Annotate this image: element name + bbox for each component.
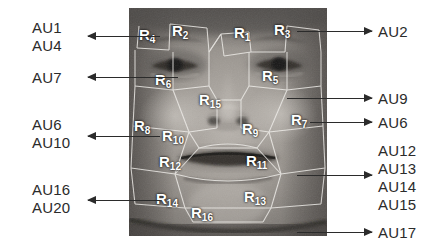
arrow-au6r	[310, 118, 372, 127]
au-label-left-au16: AU16	[32, 182, 70, 197]
arrow-au13	[297, 171, 372, 180]
arrow-au17	[297, 228, 372, 237]
au-label-right-au2: AU2	[378, 24, 408, 39]
arrow-head-icon	[364, 171, 373, 179]
arrow-head-icon	[87, 132, 96, 140]
arrow-shaft	[297, 232, 372, 233]
au-label-right-au12: AU12	[378, 143, 416, 158]
arrow-head-icon	[364, 94, 373, 102]
arrow-head-icon	[364, 27, 373, 35]
arrow-au7	[88, 73, 178, 82]
au-label-left-au6: AU6	[32, 117, 62, 132]
arrow-shaft	[297, 31, 372, 32]
arrow-head-icon	[87, 73, 96, 81]
au-label-left-au1: AU1	[32, 20, 62, 35]
au-label-right-au9: AU9	[378, 91, 408, 106]
au-label-right-au15: AU15	[378, 197, 416, 212]
arrow-shaft	[297, 175, 372, 176]
au-label-left-au7: AU7	[32, 70, 62, 85]
arrow-head-icon	[87, 196, 96, 204]
au-label-left-au20: AU20	[32, 200, 70, 215]
au-label-right-au14: AU14	[378, 179, 416, 194]
arrow-head-icon	[364, 228, 373, 236]
arrow-au6-au10	[88, 132, 160, 141]
arrow-shaft	[88, 77, 178, 78]
arrow-shaft	[88, 136, 160, 137]
arrow-head-icon	[87, 32, 96, 40]
au-label-right-au17: AU17	[378, 225, 416, 240]
arrow-shaft	[310, 122, 372, 123]
au-label-right-au6r: AU6	[378, 115, 408, 130]
arrow-shaft	[88, 200, 160, 201]
figure-canvas: R4 R2 R1 R3 R6 R5 R15 R8 R10 R9 R7 R12 R…	[0, 0, 442, 251]
au-label-right-au13: AU13	[378, 161, 416, 176]
arrow-shaft	[287, 98, 372, 99]
arrow-au1-au4	[88, 32, 160, 41]
arrow-head-icon	[364, 118, 373, 126]
au-label-left-au4: AU4	[32, 38, 62, 53]
arrow-shaft	[88, 36, 160, 37]
au-label-left-au10: AU10	[32, 135, 70, 150]
arrow-au2	[297, 27, 372, 36]
arrow-au16-au20	[88, 196, 160, 205]
arrow-au9	[287, 94, 372, 103]
